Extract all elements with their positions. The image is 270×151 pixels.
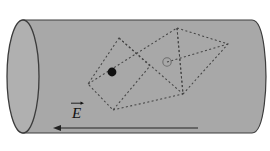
cylinder-body xyxy=(23,20,266,133)
figure-canvas xyxy=(0,0,270,151)
cylinder-left-end-cap xyxy=(7,20,39,133)
physics-figure: E xyxy=(0,0,270,151)
electric-field-label: E xyxy=(71,106,81,121)
electric-field-label-text: E xyxy=(71,106,81,121)
charge-point-filled xyxy=(108,68,117,77)
